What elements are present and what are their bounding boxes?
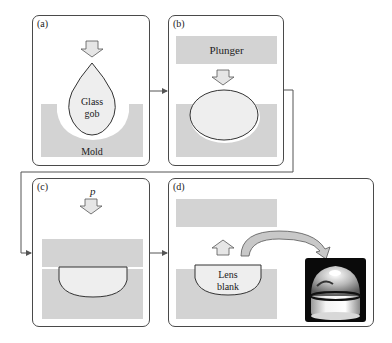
down-arrow-icon (80, 199, 102, 214)
lens-photo-graphic (305, 258, 366, 322)
panel-d-ejection: (d) Lens blank (168, 178, 374, 327)
panel-b-graphics (169, 16, 285, 167)
lens-blank-label: Lens blank (208, 269, 248, 293)
glass-gob-label: Glass gob (72, 96, 112, 120)
mold-label: Mold (41, 146, 143, 158)
up-arrow-icon (212, 240, 234, 255)
down-arrow-icon (212, 70, 234, 85)
glass-gob-flattened (190, 90, 258, 140)
panel-a-gob-drop: (a) Glass gob Mold (32, 15, 150, 166)
down-arrow-icon (81, 41, 103, 57)
panel-c-graphics (33, 179, 151, 328)
panel-a-graphics (33, 16, 151, 167)
panel-b-plunger: (b) Plunger (168, 15, 284, 166)
pressed-glass (59, 267, 127, 297)
panel-c-pressing: (c) p (32, 178, 150, 327)
lens-photo (305, 258, 366, 322)
curved-arrow-icon (241, 231, 330, 259)
